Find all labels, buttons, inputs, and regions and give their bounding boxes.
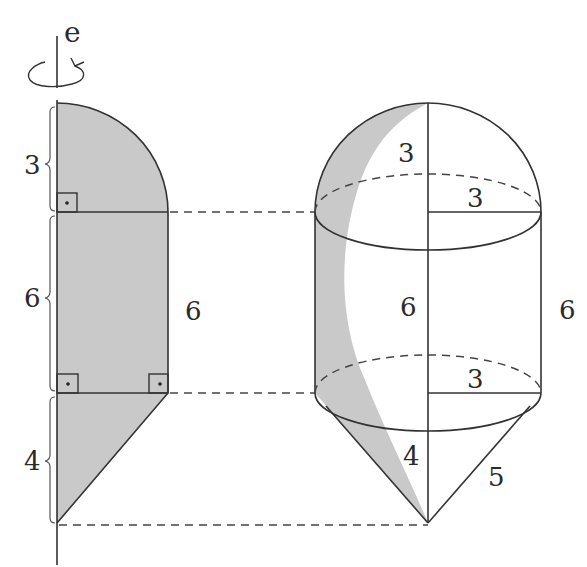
cylinder-side-label: 6 bbox=[559, 295, 576, 325]
brace-middle bbox=[45, 216, 55, 391]
rotation-arrow-icon bbox=[28, 58, 84, 87]
cone-height-label: 4 bbox=[403, 441, 420, 471]
brace-top bbox=[45, 107, 55, 211]
profile-shaded-region bbox=[57, 103, 168, 523]
cylinder-height-label: 6 bbox=[400, 292, 417, 322]
cylinder-radius-label: 3 bbox=[467, 364, 484, 394]
rectangle-side-label: 6 bbox=[185, 296, 202, 326]
axis-label: e bbox=[64, 16, 81, 49]
cone-right-slant bbox=[428, 406, 530, 523]
solid-of-revolution bbox=[315, 103, 541, 523]
solid-of-revolution-diagram: e 3 6 6 4 3 3 6 6 bbox=[0, 0, 587, 567]
hemisphere-height-label-left: 3 bbox=[24, 150, 41, 180]
rectangle-height-label-left: 6 bbox=[24, 283, 41, 313]
hemisphere-radius-label: 3 bbox=[467, 183, 484, 213]
cone-slant-label: 5 bbox=[488, 462, 505, 492]
triangle-height-label-left: 4 bbox=[24, 446, 41, 476]
left-profile bbox=[57, 103, 168, 523]
hemisphere-height-label: 3 bbox=[398, 138, 415, 168]
brace-bottom bbox=[45, 397, 55, 523]
